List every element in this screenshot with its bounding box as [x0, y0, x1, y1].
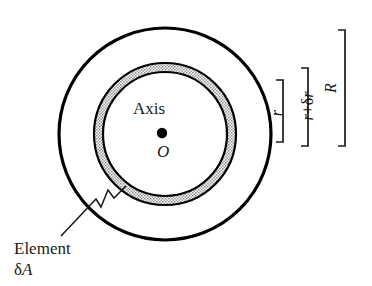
dimension-label-r: r — [268, 100, 286, 126]
dimension-label-R: R — [322, 74, 340, 102]
element-area-label: δA — [14, 261, 32, 278]
origin-label: O — [157, 143, 169, 160]
figure-canvas: Axis O Element δA r r+δr R — [0, 0, 372, 286]
element-area-delta: δ — [14, 260, 22, 279]
axis-label: Axis — [133, 100, 165, 117]
element-area-variable: A — [22, 260, 32, 279]
element-label: Element — [14, 240, 71, 257]
dimension-label-r-plus-delta-r: r+δr — [299, 78, 317, 134]
axis-point — [157, 128, 167, 138]
